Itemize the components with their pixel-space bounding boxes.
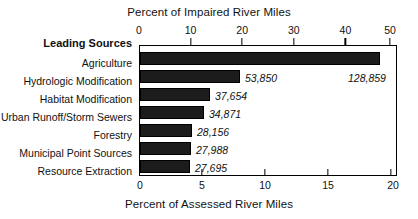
category-label-urban-runoff-storm-sewers: Urban Runoff/Storm Sewers [0, 111, 135, 123]
top-axis-tick-label: 20 [236, 24, 248, 36]
bar-value-forestry: 28,156 [197, 126, 229, 138]
bar-value-hydrologic-modification: 53,850 [245, 72, 277, 84]
bar-value-agriculture: 128,859 [348, 72, 386, 84]
bottom-axis: 0 5 10 15 20 [139, 176, 397, 198]
top-axis-title: Percent of Impaired River Miles [20, 6, 398, 18]
bar-urban-runoff-storm-sewers [140, 106, 204, 119]
top-axis-tick-mark [190, 38, 191, 45]
category-axis-heading: Leading Sources [0, 37, 135, 49]
bar-resource-extraction [140, 160, 190, 173]
bar-habitat-modification [140, 88, 210, 101]
bottom-axis-tick-mark [201, 169, 202, 176]
bottom-axis-tick-label: 20 [387, 179, 399, 191]
bar-hydrologic-modification [140, 70, 240, 83]
bottom-axis-tick-label: 10 [259, 179, 271, 191]
bar-value-municipal-point-sources: 27,988 [196, 144, 228, 156]
category-label-municipal-point-sources: Municipal Point Sources [0, 147, 135, 159]
bar-municipal-point-sources [140, 142, 191, 155]
category-label-forestry: Forestry [0, 129, 135, 141]
top-axis-tick-mark [389, 38, 390, 45]
top-axis-tick-mark [242, 38, 243, 45]
bottom-axis-tick-mark [264, 169, 265, 176]
bars-layer: 128,859 53,850 37,654 34,871 28,156 27,9… [140, 46, 396, 175]
bottom-axis-tick-label: 15 [322, 179, 334, 191]
top-axis-tick-label: 30 [288, 24, 300, 36]
bottom-axis-title: Percent of Assessed River Miles [20, 198, 398, 210]
bottom-axis-tick-mark [390, 169, 391, 176]
top-axis-tick-label: 10 [185, 24, 197, 36]
bar-value-urban-runoff-storm-sewers: 34,871 [209, 108, 241, 120]
bottom-axis-tick-label: 5 [199, 179, 205, 191]
top-axis-tick-label: 40 [340, 24, 352, 36]
top-axis: 0 10 20 30 40 50 [139, 24, 397, 45]
top-axis-tick-mark [293, 38, 294, 45]
top-axis-tick-mark [345, 38, 346, 45]
top-axis-tick-label: 50 [384, 24, 396, 36]
bar-value-habitat-modification: 37,654 [215, 90, 247, 102]
bar-value-resource-extraction: 27,695 [195, 162, 227, 174]
bar-agriculture [140, 52, 380, 65]
category-label-habitat-modification: Habitat Modification [0, 93, 135, 105]
bottom-axis-tick-label: 0 [137, 179, 143, 191]
impaired-river-miles-bar-chart: Percent of Impaired River Miles 0 10 20 … [0, 0, 418, 219]
category-label-hydrologic-modification: Hydrologic Modification [0, 75, 135, 87]
category-label-agriculture: Agriculture [0, 57, 135, 69]
top-axis-tick-label: 0 [136, 24, 142, 36]
bottom-axis-tick-mark [327, 169, 328, 176]
category-label-resource-extraction: Resource Extraction [0, 165, 135, 177]
bar-forestry [140, 124, 192, 137]
